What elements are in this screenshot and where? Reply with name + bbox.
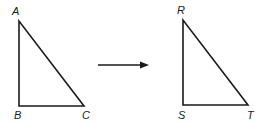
- vertex-label-s: S: [178, 109, 186, 121]
- vertex-label-r: R: [177, 4, 185, 16]
- triangle-abc: A B C: [11, 5, 90, 121]
- vertex-label-t: T: [247, 109, 255, 121]
- transformation-diagram: A B C R S T: [0, 0, 265, 123]
- vertex-label-b: B: [14, 109, 21, 121]
- vertex-label-c: C: [82, 109, 90, 121]
- triangle-rst: R S T: [177, 4, 255, 121]
- transformation-arrow: [98, 62, 149, 69]
- vertex-label-a: A: [11, 5, 19, 17]
